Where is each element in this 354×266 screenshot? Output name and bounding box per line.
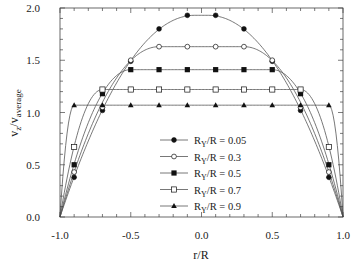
filled-triangle-marker-icon	[298, 102, 304, 107]
y-tick-label: 0.0	[26, 211, 40, 223]
x-axis-label: r/R	[193, 248, 208, 262]
y-tick-label: 0.5	[26, 159, 40, 171]
filled-square-marker-icon	[171, 170, 176, 175]
open-square-marker-icon	[270, 87, 275, 92]
filled-triangle-marker-icon	[171, 203, 177, 208]
filled-circle-marker-icon	[213, 13, 218, 18]
legend: RY/R = 0.05RY/R = 0.3RY/R = 0.5RY/R = 0.…	[160, 135, 246, 215]
open-square-marker-icon	[156, 87, 161, 92]
open-square-marker-icon	[72, 144, 77, 149]
open-square-marker-icon	[185, 87, 190, 92]
open-square-marker-icon	[128, 87, 133, 92]
plot-area	[60, 13, 343, 217]
filled-circle-marker-icon	[326, 175, 331, 180]
open-square-marker-icon	[100, 87, 105, 92]
filled-square-marker-icon	[241, 67, 246, 72]
x-tick-label: 0.5	[265, 229, 279, 241]
filled-triangle-marker-icon	[156, 102, 162, 107]
open-circle-marker-icon	[157, 44, 162, 49]
legend-label: RY/R = 0.9	[194, 201, 241, 215]
filled-circle-marker-icon	[172, 138, 177, 143]
velocity-profile-chart: -1.0-0.50.00.51.00.00.51.01.52.0 RY/R = …	[0, 0, 354, 266]
series-line	[60, 15, 343, 217]
filled-square-marker-icon	[270, 67, 275, 72]
open-circle-marker-icon	[72, 170, 77, 175]
filled-square-marker-icon	[185, 67, 190, 72]
open-circle-marker-icon	[172, 154, 177, 159]
legend-label: RY/R = 0.3	[194, 152, 241, 166]
filled-triangle-marker-icon	[241, 102, 247, 107]
filled-triangle-marker-icon	[269, 102, 275, 107]
y-tick-label: 1.0	[26, 107, 40, 119]
filled-triangle-marker-icon	[185, 102, 191, 107]
filled-square-marker-icon	[213, 67, 218, 72]
legend-item: RY/R = 0.9	[160, 201, 241, 215]
open-square-marker-icon	[298, 87, 303, 92]
legend-item: RY/R = 0.05	[160, 135, 246, 149]
open-square-marker-icon	[241, 87, 246, 92]
filled-triangle-marker-icon	[71, 102, 77, 107]
open-square-marker-icon	[171, 187, 176, 192]
x-tick-label: -0.5	[122, 229, 140, 241]
filled-triangle-marker-icon	[213, 102, 219, 107]
filled-triangle-marker-icon	[128, 102, 134, 107]
legend-label: RY/R = 0.7	[194, 185, 241, 199]
axes: -1.0-0.50.00.51.00.00.51.01.52.0	[26, 2, 350, 241]
open-circle-marker-icon	[242, 44, 247, 49]
open-circle-marker-icon	[128, 58, 133, 63]
filled-circle-marker-icon	[242, 27, 247, 32]
svg-text:vz/vaverage: vz/vaverage	[7, 89, 23, 136]
y-tick-label: 2.0	[26, 2, 40, 14]
filled-circle-marker-icon	[185, 13, 190, 18]
y-tick-label: 1.5	[26, 54, 40, 66]
open-circle-marker-icon	[185, 44, 190, 49]
legend-item: RY/R = 0.3	[160, 152, 241, 166]
x-tick-label: 0.0	[195, 229, 209, 241]
filled-square-marker-icon	[156, 67, 161, 72]
legend-label: RY/R = 0.5	[194, 168, 241, 182]
legend-label: RY/R = 0.05	[194, 135, 246, 149]
open-square-marker-icon	[326, 144, 331, 149]
open-circle-marker-icon	[213, 44, 218, 49]
filled-circle-marker-icon	[157, 27, 162, 32]
filled-circle-marker-icon	[72, 175, 77, 180]
x-tick-label: -1.0	[51, 229, 69, 241]
filled-square-marker-icon	[72, 162, 77, 167]
legend-item: RY/R = 0.5	[160, 168, 241, 182]
y-axis-label: vz/vaverage	[7, 89, 23, 136]
open-square-marker-icon	[213, 87, 218, 92]
filled-square-marker-icon	[128, 67, 133, 72]
open-circle-marker-icon	[326, 170, 331, 175]
x-tick-label: 1.0	[336, 229, 350, 241]
filled-triangle-marker-icon	[326, 102, 332, 107]
legend-item: RY/R = 0.7	[160, 185, 241, 199]
open-circle-marker-icon	[270, 58, 275, 63]
filled-triangle-marker-icon	[100, 102, 106, 107]
filled-square-marker-icon	[326, 162, 331, 167]
